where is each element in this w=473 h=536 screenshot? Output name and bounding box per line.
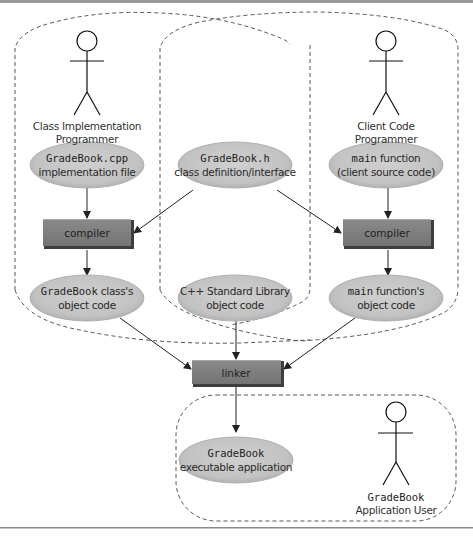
compiler-right-label: compiler bbox=[364, 227, 410, 239]
edge-main-obj-to-linker bbox=[284, 318, 355, 369]
actor-label-line1: GradeBook bbox=[355, 491, 436, 504]
class-implementation-programmer-label: Class Implementation Programmer bbox=[33, 120, 141, 146]
node-text: object code bbox=[348, 298, 425, 312]
gradebook-h-label: GradeBook.h class definition/interface bbox=[174, 151, 295, 179]
node-text: implementation file bbox=[39, 165, 136, 179]
main-function-label: main function (client source code) bbox=[337, 151, 435, 179]
application-user-actor-icon bbox=[378, 402, 413, 485]
bottom-rule bbox=[0, 527, 473, 529]
actor-label-line2: Programmer bbox=[33, 133, 141, 146]
node-text-inline: function's bbox=[373, 285, 424, 297]
actor-label-line1: Client Code bbox=[355, 120, 417, 133]
cpp-standard-library-object-code-label: C++ Standard Library object code bbox=[180, 284, 290, 312]
gradebook-class-object-code-label: GradeBook class's object code bbox=[41, 284, 133, 312]
node-code: main bbox=[352, 152, 377, 164]
node-code: GradeBook.cpp bbox=[39, 151, 136, 165]
node-code: GradeBook bbox=[180, 446, 292, 460]
compiler-left-label: compiler bbox=[64, 227, 110, 239]
node-code: GradeBook bbox=[41, 285, 98, 297]
edge-header-to-compiler-right bbox=[277, 190, 341, 233]
edge-class-obj-to-linker bbox=[120, 318, 191, 369]
actor-label-line2: Programmer bbox=[355, 133, 417, 146]
node-text-inline: class's bbox=[98, 285, 133, 297]
node-code: GradeBook.h bbox=[174, 151, 295, 165]
client-code-programmer-label: Client Code Programmer bbox=[355, 120, 417, 146]
linker-label: linker bbox=[222, 367, 251, 379]
gradebook-cpp-label: GradeBook.cpp implementation file bbox=[39, 151, 136, 179]
node-code: main bbox=[348, 285, 373, 297]
node-text: (client source code) bbox=[337, 165, 435, 179]
node-text: object code bbox=[180, 298, 290, 312]
actor-label-line2: Application User bbox=[355, 504, 436, 517]
node-text-line1: C++ Standard Library bbox=[180, 284, 290, 298]
actor-label-line1: Class Implementation bbox=[33, 120, 141, 133]
top-rule bbox=[0, 0, 473, 3]
gradebook-executable-label: GradeBook executable application bbox=[180, 446, 292, 474]
class-implementation-programmer-actor-icon bbox=[70, 31, 104, 115]
main-function-object-code-label: main function's object code bbox=[348, 284, 425, 312]
node-text: executable application bbox=[180, 460, 292, 474]
node-text: object code bbox=[41, 298, 133, 312]
application-user-label: GradeBook Application User bbox=[355, 491, 436, 517]
node-text-inline: function bbox=[377, 152, 421, 164]
client-code-programmer-actor-icon bbox=[369, 31, 403, 115]
edge-header-to-compiler-left bbox=[134, 190, 193, 233]
node-text: class definition/interface bbox=[174, 165, 295, 179]
